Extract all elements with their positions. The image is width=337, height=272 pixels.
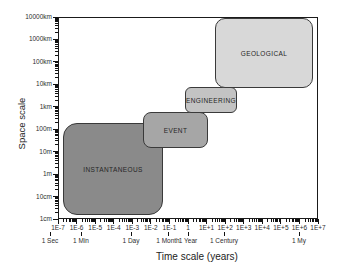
y-minor-tick (55, 68, 58, 69)
y-minor-tick (55, 212, 58, 213)
x-minor-tick (175, 219, 176, 222)
x-minor-tick (100, 219, 101, 222)
x-minor-tick (66, 219, 67, 222)
y-minor-tick (55, 46, 58, 47)
y-major-tick (53, 39, 58, 40)
y-major-tick (53, 196, 58, 197)
y-minor-tick (55, 51, 58, 52)
x-minor-tick (122, 219, 123, 222)
x-minor-tick (212, 219, 213, 222)
y-tick-label: 1cm (8, 215, 52, 223)
y-minor-tick (55, 130, 58, 131)
region-event: EVENT (143, 112, 208, 148)
y-major-tick (53, 84, 58, 85)
region-label: EVENT (164, 127, 188, 134)
y-minor-tick (55, 160, 58, 161)
y-minor-tick (55, 138, 58, 139)
x-minor-tick (196, 219, 197, 222)
y-minor-tick (55, 64, 58, 65)
y-minor-tick (55, 134, 58, 135)
y-minor-tick (55, 77, 58, 78)
x-minor-tick (252, 219, 253, 222)
x-minor-tick (215, 219, 216, 222)
region-label: ENGINEERING (186, 97, 236, 104)
x-minor-tick (137, 219, 138, 222)
y-minor-tick (55, 18, 58, 19)
x-minor-tick (82, 219, 83, 222)
y-minor-tick (55, 108, 58, 109)
x-minor-tick (85, 219, 86, 222)
y-minor-tick (55, 122, 58, 123)
y-major-tick (53, 17, 58, 18)
y-major-tick (53, 151, 58, 152)
y-minor-tick (55, 40, 58, 41)
y-minor-tick (55, 152, 58, 153)
y-minor-tick (55, 131, 58, 132)
y-minor-tick (55, 48, 58, 49)
y-minor-tick (55, 65, 58, 66)
y-minor-tick (55, 144, 58, 145)
y-minor-tick (55, 179, 58, 180)
y-minor-tick (55, 55, 58, 56)
y-minor-tick (55, 111, 58, 112)
y-minor-tick (55, 176, 58, 177)
y-minor-tick (55, 28, 58, 29)
y-minor-tick (55, 87, 58, 88)
y-tick-label: 100m (8, 125, 52, 133)
x-minor-tick (159, 219, 160, 222)
y-minor-tick (55, 197, 58, 198)
region-engineering: ENGINEERING (185, 87, 237, 113)
y-minor-tick (55, 115, 58, 116)
x-minor-tick (141, 219, 142, 222)
y-minor-tick (55, 42, 58, 43)
y-minor-tick (55, 180, 58, 181)
x-axis-title: Time scale (years) (127, 251, 267, 262)
y-tick-label: 10000km (8, 13, 52, 21)
y-minor-tick (55, 100, 58, 101)
y-tick-label: 1000km (8, 35, 52, 43)
y-minor-tick (55, 167, 58, 168)
y-minor-tick (55, 91, 58, 92)
y-minor-tick (55, 205, 58, 206)
x-minor-tick (267, 219, 268, 222)
y-minor-tick (55, 70, 58, 71)
x-minor-tick (289, 219, 290, 222)
y-minor-tick (55, 185, 58, 186)
y-tick-label: 1km (8, 103, 52, 111)
time-marker-tick (168, 232, 169, 236)
region-geological: GEOLOGICAL (215, 18, 313, 88)
y-minor-tick (55, 93, 58, 94)
x-minor-tick (119, 219, 120, 222)
y-minor-tick (55, 153, 58, 154)
x-minor-tick (249, 219, 250, 222)
y-minor-tick (55, 110, 58, 111)
x-minor-tick (230, 219, 231, 222)
time-marker-tick (50, 232, 51, 236)
y-minor-tick (55, 19, 58, 20)
x-tick-label: 1E+7 (305, 224, 331, 231)
x-minor-tick (234, 219, 235, 222)
y-minor-tick (55, 62, 58, 63)
y-minor-tick (55, 140, 58, 141)
x-minor-tick (286, 219, 287, 222)
y-minor-tick (55, 208, 58, 209)
y-major-tick (53, 106, 58, 107)
x-minor-tick (104, 219, 105, 222)
time-marker-label: 1 Min (61, 237, 101, 244)
y-tick-label: 1m (8, 170, 52, 178)
y-minor-tick (55, 20, 58, 21)
y-minor-tick (55, 158, 58, 159)
time-marker-tick (299, 232, 300, 236)
y-major-tick (53, 129, 58, 130)
x-minor-tick (308, 219, 309, 222)
y-minor-tick (55, 118, 58, 119)
y-major-tick (53, 61, 58, 62)
y-minor-tick (55, 89, 58, 90)
figure: Space scale Time scale (years) INSTANTAN… (0, 0, 337, 272)
time-marker-label: 1 Day (111, 237, 151, 244)
y-minor-tick (55, 41, 58, 42)
y-minor-tick (55, 32, 58, 33)
x-minor-tick (305, 219, 306, 222)
y-minor-tick (55, 25, 58, 26)
y-minor-tick (55, 66, 58, 67)
